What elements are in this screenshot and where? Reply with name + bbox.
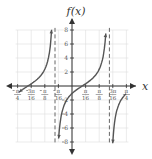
x-tick-label: π16	[82, 88, 89, 101]
svg-text:16: 16	[28, 95, 35, 101]
x-axis-arrow-left-icon	[6, 83, 12, 89]
x-tick-label: 3π16	[109, 88, 117, 101]
svg-text:8: 8	[64, 138, 68, 145]
svg-text:8: 8	[64, 26, 68, 33]
svg-text:π: π	[125, 88, 129, 94]
y-tick-label: 6	[64, 40, 68, 47]
y-tick-label: 2	[62, 96, 68, 103]
y-tick-label: 6	[62, 124, 68, 131]
axes	[6, 18, 136, 155]
svg-text:4: 4	[64, 110, 68, 117]
svg-text:π: π	[57, 88, 61, 94]
tangent-graph: π43π16π8π16π16π83π16π486422468 f(x) x	[0, 0, 152, 159]
svg-text:π: π	[97, 88, 101, 94]
y-tick-label: 8	[62, 138, 68, 145]
x-axis-label: x	[142, 80, 149, 93]
branch-right	[113, 94, 126, 143]
x-tick-label: π4	[123, 88, 130, 101]
y-tick-label: 8	[64, 26, 68, 33]
x-axis-arrow-right-icon	[130, 83, 136, 89]
svg-text:π: π	[43, 88, 47, 94]
svg-text:6: 6	[64, 40, 68, 47]
svg-text:16: 16	[55, 95, 62, 101]
y-axis-label: f(x)	[66, 5, 86, 18]
y-tick-label: 2	[64, 68, 68, 75]
curve-arrow-icon	[111, 139, 114, 143]
svg-text:π: π	[16, 88, 20, 94]
svg-text:16: 16	[109, 95, 116, 101]
y-tick-label: 4	[64, 54, 68, 61]
svg-text:2: 2	[64, 96, 68, 103]
svg-text:π: π	[84, 88, 88, 94]
x-tick-label: π8	[40, 88, 49, 101]
svg-text:4: 4	[125, 95, 129, 101]
svg-text:3π: 3π	[28, 88, 35, 94]
svg-text:4: 4	[64, 54, 68, 61]
svg-text:3π: 3π	[109, 88, 116, 94]
svg-text:2: 2	[64, 68, 68, 75]
svg-text:6: 6	[64, 124, 68, 131]
svg-text:4: 4	[16, 95, 20, 101]
y-axis-arrow-down-icon	[69, 149, 75, 155]
curve-arrow-icon	[50, 30, 53, 34]
svg-text:8: 8	[43, 95, 47, 101]
svg-text:16: 16	[82, 95, 89, 101]
y-axis-arrow-up-icon	[69, 18, 75, 24]
x-tick-label: π4	[13, 88, 22, 101]
x-tick-label: π8	[96, 88, 103, 101]
x-tick-label: 3π16	[26, 88, 35, 101]
svg-text:8: 8	[97, 95, 101, 101]
branch-left	[19, 30, 52, 93]
